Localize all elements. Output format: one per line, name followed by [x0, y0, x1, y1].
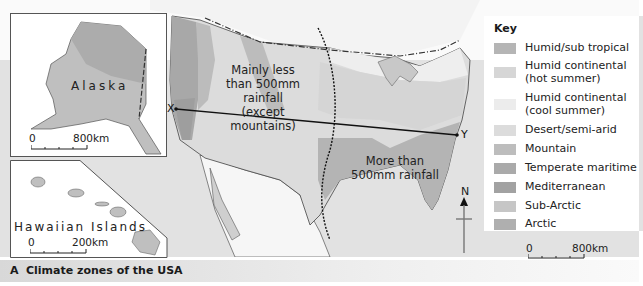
key-label: Temperate maritime: [525, 161, 637, 174]
alaska-inset: Alaska 0 800km: [10, 13, 167, 157]
key-label: Humid continental (hot summer): [525, 59, 626, 85]
transect-end-label: Y: [461, 128, 468, 141]
swatch-mountain: [494, 144, 516, 155]
swatch-humid-continental-hot: [494, 67, 516, 78]
hawaii-scale-end: 200km: [72, 236, 108, 248]
key-item-humid-continental-cool: Humid continental (cool summer): [494, 91, 626, 117]
key-title: Key: [494, 22, 517, 35]
key-label: Humid/sub tropical: [525, 41, 629, 54]
key-label: Mediterranean: [525, 180, 605, 193]
alaska-scale-bar: 0 800km: [27, 132, 127, 152]
alaska-scale-start: 0: [29, 132, 36, 144]
alaska-scale-end: 800km: [73, 132, 109, 144]
hawaii-inset: Hawaiian Islands 0 200km: [10, 160, 168, 258]
swatch-humid-subtropical: [494, 43, 516, 54]
east-rainfall-note: More than 500mm rainfall: [340, 154, 450, 182]
key-item-desert: Desert/semi-arid: [494, 123, 617, 136]
swatch-humid-continental-cool: [494, 99, 516, 110]
key-item-humid-continental-hot: Humid continental (hot summer): [494, 59, 626, 85]
main-scale-bar: 0 800km: [526, 242, 616, 258]
swatch-temperate-maritime: [494, 163, 516, 174]
key-item-mountain: Mountain: [494, 142, 576, 155]
key-item-mediterranean: Mediterranean: [494, 180, 605, 193]
hawaii-scale-start: 0: [28, 236, 35, 248]
swatch-sub-arctic: [494, 201, 516, 212]
swatch-mediterranean: [494, 182, 516, 193]
caption-letter: A: [10, 264, 19, 277]
alaska-label: Alaska: [71, 79, 128, 93]
hawaii-scale-bar: 0 200km: [26, 236, 126, 256]
key-item-sub-arctic: Sub-Arctic: [494, 199, 581, 212]
caption-title: Climate zones of the USA: [26, 264, 183, 277]
swatch-arctic: [494, 219, 516, 230]
map-key: Key Humid/sub tropical Humid continental…: [484, 16, 643, 231]
key-item-humid-subtropical: Humid/sub tropical: [494, 41, 629, 54]
hawaii-label: Hawaiian Islands: [14, 220, 147, 234]
key-label: Arctic: [525, 217, 556, 230]
north-arrow: N: [455, 185, 479, 255]
key-item-temperate-maritime: Temperate maritime: [494, 161, 637, 174]
key-label: Desert/semi-arid: [525, 123, 617, 136]
figure-caption: A Climate zones of the USA: [0, 260, 639, 282]
west-rainfall-note: Mainly less than 500mm rainfall (except …: [208, 63, 318, 133]
north-arrow-icon: [455, 197, 479, 255]
key-item-arctic: Arctic: [494, 217, 556, 230]
key-label: Mountain: [525, 142, 576, 155]
transect-start-label: X: [167, 102, 175, 115]
main-scale-start: 0: [526, 242, 533, 254]
main-scale-end: 800km: [572, 242, 608, 254]
swatch-desert: [494, 125, 516, 136]
key-label: Sub-Arctic: [525, 199, 581, 212]
key-label: Humid continental (cool summer): [525, 91, 626, 117]
